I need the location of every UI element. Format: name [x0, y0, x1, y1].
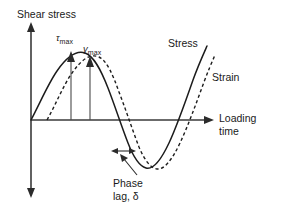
phase-lag-line1: Phase [113, 177, 143, 190]
phase-lag-leader-line [124, 159, 137, 175]
phase-lag-label: Phase lag, δ [113, 177, 143, 203]
tau-subscript: max [60, 38, 74, 45]
phase-lag-leader-arrowhead [120, 154, 128, 162]
y-axis-down-arrowhead [27, 188, 35, 198]
x-axis-label-line1: Loading [219, 112, 256, 125]
strain-curve-label: Strain [212, 72, 239, 84]
tau-max-arrowhead [67, 51, 75, 62]
x-axis-label-line2: time [219, 125, 256, 138]
gamma-max-label: γmax [83, 44, 101, 57]
stress-curve-label: Stress [168, 38, 198, 50]
shear-stress-loading-time-figure: Shear stress Loading time Stress Strain … [0, 0, 283, 210]
y-axis-label: Shear stress [17, 9, 76, 21]
tau-max-label: τmax [56, 33, 73, 46]
phase-lag-line2: lag, δ [113, 190, 143, 203]
y-axis-up-arrowhead [27, 22, 35, 32]
x-axis-right-arrowhead [204, 116, 214, 124]
phase-lag-left-arrowhead [111, 148, 118, 154]
stress-curve [31, 46, 207, 168]
gamma-subscript: max [88, 49, 102, 56]
x-axis-label: Loading time [219, 112, 256, 138]
